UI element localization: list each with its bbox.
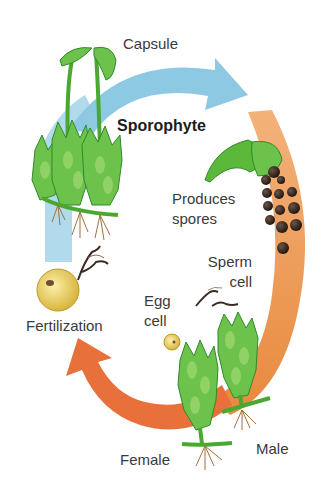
label-female: Female: [120, 451, 170, 469]
label-sperm-cell-line1: Sperm: [200, 253, 252, 271]
label-fertilization: Fertilization: [26, 317, 103, 335]
egg-cell: [164, 334, 180, 350]
moss-life-cycle-diagram: Capsule Sporophyte Produces spores Sperm…: [0, 0, 330, 480]
label-sperm-cell-line2: cell: [200, 273, 252, 291]
diagram-artwork: [0, 0, 330, 480]
label-capsule: Capsule: [123, 35, 178, 53]
label-produces-spores-line2: spores: [172, 210, 217, 228]
label-sporophyte: Sporophyte: [117, 117, 206, 135]
label-male: Male: [256, 440, 289, 458]
label-produces-spores-line1: Produces: [172, 190, 235, 208]
label-egg-cell-line2: cell: [144, 312, 167, 330]
label-egg-cell-line1: Egg: [144, 292, 171, 310]
